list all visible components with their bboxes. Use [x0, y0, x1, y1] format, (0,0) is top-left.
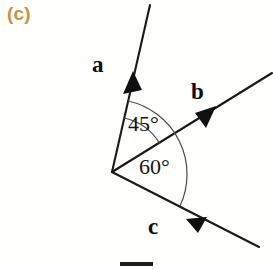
- vector-b-label: b: [191, 80, 204, 103]
- vector-a-label: a: [92, 53, 104, 76]
- angle-label-45: 45°: [128, 113, 159, 135]
- bottom-edge-artifact: [120, 262, 153, 266]
- vector-c-label: c: [148, 215, 158, 238]
- vector-c-line: [112, 172, 259, 247]
- vector-c-arrowhead: [186, 217, 207, 233]
- vector-a-arrowhead: [123, 71, 142, 94]
- angle-label-60: 60°: [139, 156, 170, 178]
- vector-b-arrowhead: [195, 106, 216, 128]
- figure-panel: (c) a b c 45° 60°: [0, 0, 273, 269]
